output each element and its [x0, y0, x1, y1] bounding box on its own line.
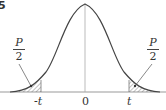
center-label: 0 — [82, 95, 89, 108]
right-tail-numerator: P — [147, 37, 159, 48]
left-tail-numerator: P — [13, 37, 25, 48]
left-tail-denominator: 2 — [13, 51, 25, 62]
right-tail-denominator: 2 — [147, 51, 159, 62]
left-tail-label: P 2 — [13, 37, 25, 62]
right-leader-dot — [134, 85, 136, 87]
left-cutoff-label: -t — [34, 95, 42, 108]
left-leader-line — [19, 64, 31, 86]
right-cutoff-label: t — [127, 95, 131, 108]
right-leader-line — [135, 64, 152, 86]
right-tail-label: P 2 — [147, 37, 159, 62]
left-leader-dot — [30, 85, 32, 87]
